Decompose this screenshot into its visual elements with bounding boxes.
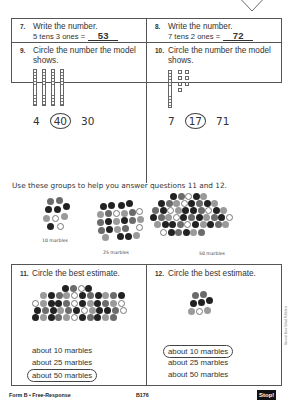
- choice-40-circled[interactable]: 40: [50, 113, 71, 129]
- marble-icon: [211, 200, 218, 207]
- question-10: 10. Circle the number the model shows. 7…: [147, 43, 281, 183]
- footer-form-label: Form B • Free-Response: [9, 392, 71, 398]
- marble-icon: [222, 221, 229, 228]
- marble-icon: [188, 200, 195, 207]
- marble-icon: [94, 314, 101, 321]
- marble-icon: [168, 229, 175, 236]
- marble-icon: [218, 214, 225, 221]
- marble-icon: [204, 307, 211, 314]
- marble-icon: [206, 297, 213, 304]
- marble-icon: [200, 291, 207, 298]
- marble-icon: [190, 300, 197, 307]
- marble-icon: [154, 221, 161, 228]
- marble-icon: [110, 292, 117, 299]
- marble-icon: [63, 292, 70, 299]
- marble-icon: [57, 223, 64, 230]
- marble-icon: [182, 207, 189, 214]
- question-7: 7. Write the number. 5 tens 3 ones =53: [12, 19, 147, 43]
- marble-icon: [126, 200, 133, 207]
- page-badge-shape-icon: [232, 0, 272, 12]
- estimate-option[interactable]: about 50 marbles: [168, 369, 228, 380]
- marble-icon: [175, 207, 182, 214]
- estimate-option-circled[interactable]: about 50 marbles: [27, 369, 97, 382]
- marble-icon: [40, 314, 47, 321]
- marble-icon: [166, 200, 173, 207]
- question-number: 12.: [155, 270, 164, 277]
- marble-icon: [79, 314, 86, 321]
- marble-icon: [70, 285, 77, 292]
- marble-icon: [198, 299, 205, 306]
- expression-text: 7 tens 2 ones =: [168, 32, 220, 41]
- marble-icon: [173, 200, 180, 207]
- marble-icon: [87, 314, 94, 321]
- marble-icon: [133, 232, 140, 239]
- marble-icon: [205, 207, 212, 214]
- group-label: 10 marbles: [42, 238, 68, 243]
- marble-icon: [178, 193, 185, 200]
- marble-icon: [110, 300, 117, 307]
- choice-71[interactable]: 71: [214, 114, 231, 128]
- choice-30[interactable]: 30: [79, 114, 96, 128]
- choice-4[interactable]: 4: [31, 114, 42, 128]
- marble-icon: [48, 292, 55, 299]
- marble-icon: [96, 307, 103, 314]
- marble-icon: [55, 314, 62, 321]
- marble-icon: [102, 300, 109, 307]
- choice-17-circled[interactable]: 17: [185, 113, 206, 129]
- marble-icon: [158, 200, 165, 207]
- unit-cube-icon: [185, 82, 189, 86]
- marble-icon: [71, 292, 78, 299]
- estimate-option[interactable]: about 25 marbles: [32, 357, 92, 368]
- estimate-option[interactable]: about 25 marbles: [168, 357, 228, 368]
- marble-icon: [62, 285, 69, 292]
- answer-field[interactable]: 53: [88, 31, 118, 41]
- question-11: 11. Circle the best estimate. about 10 m…: [12, 265, 147, 385]
- marble-icon: [162, 221, 169, 228]
- marble-icon: [160, 229, 167, 236]
- expression-text: 5 tens 3 ones =: [33, 32, 85, 41]
- unit-cube-icon: [185, 70, 189, 74]
- marble-icon: [85, 285, 92, 292]
- question-9: 9. Circle the number the model shows. 4 …: [12, 43, 147, 183]
- prompt-line: Circle the number the model: [168, 46, 271, 56]
- marble-icon: [63, 314, 70, 321]
- marble-icon: [181, 200, 188, 207]
- marble-icon: [200, 193, 207, 200]
- tens-rod-icon: [60, 69, 64, 106]
- marble-icon: [188, 308, 195, 315]
- questions-11-12-grid: 11. Circle the best estimate. about 10 m…: [11, 264, 282, 386]
- marble-icon: [63, 203, 70, 210]
- question-number: 7.: [20, 23, 25, 30]
- marble-icon: [129, 217, 136, 224]
- marble-icon: [56, 292, 63, 299]
- marble-icon: [193, 193, 200, 200]
- marble-icon: [136, 208, 143, 215]
- marble-icon: [160, 207, 167, 214]
- page-badge: PAGE 2: [232, 0, 272, 12]
- marble-icon: [34, 307, 41, 314]
- marble-icon: [125, 233, 132, 240]
- estimate-option[interactable]: about 10 marbles: [32, 345, 92, 356]
- marble-icon: [215, 221, 222, 228]
- marble-icon: [198, 207, 205, 214]
- marble-icon: [110, 314, 117, 321]
- marble-icon: [184, 221, 191, 228]
- marble-icon: [165, 214, 172, 221]
- footer-page-code: B176: [136, 392, 149, 398]
- marble-icon: [188, 214, 195, 221]
- marble-icon: [89, 307, 96, 314]
- tens-rod-icon: [168, 70, 172, 108]
- question-prompt: Circle the best estimate.: [168, 269, 256, 279]
- marble-icon: [42, 307, 49, 314]
- unit-cube-icon: [185, 76, 189, 80]
- marble-icon: [40, 300, 47, 307]
- stop-badge: Stop!: [257, 390, 276, 400]
- marble-icon: [192, 221, 199, 228]
- answer-field[interactable]: 72: [223, 31, 253, 41]
- marble-icon: [173, 214, 180, 221]
- marble-icon: [175, 229, 182, 236]
- marble-icon: [100, 203, 107, 210]
- prompt-line: shows.: [33, 56, 136, 66]
- choice-7[interactable]: 7: [166, 114, 177, 128]
- marble-icon: [87, 300, 94, 307]
